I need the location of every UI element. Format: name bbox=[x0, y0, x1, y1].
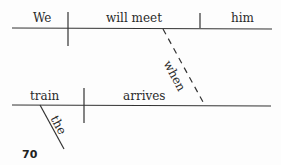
word-sub-subject: train bbox=[30, 89, 59, 103]
word-sub-verb: arrives bbox=[123, 89, 166, 103]
sentence-diagram: We will meet him when train arrives the … bbox=[0, 0, 281, 165]
word-subject: We bbox=[33, 11, 51, 25]
page-number: 70 bbox=[22, 148, 37, 161]
word-object: him bbox=[231, 11, 254, 25]
subordinate-baseline bbox=[12, 105, 271, 106]
word-verb: will meet bbox=[106, 11, 162, 25]
main-baseline bbox=[12, 28, 272, 29]
